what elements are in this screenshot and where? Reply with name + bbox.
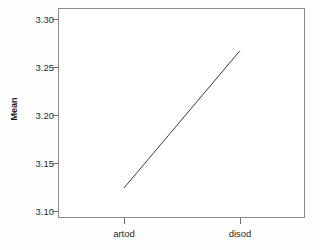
data-line-layer [0, 0, 320, 250]
mean-series-line [124, 51, 240, 188]
line-chart-figure: Mean 3.30 3.25 3.20 3.15 3.10 artod diso… [0, 0, 320, 250]
